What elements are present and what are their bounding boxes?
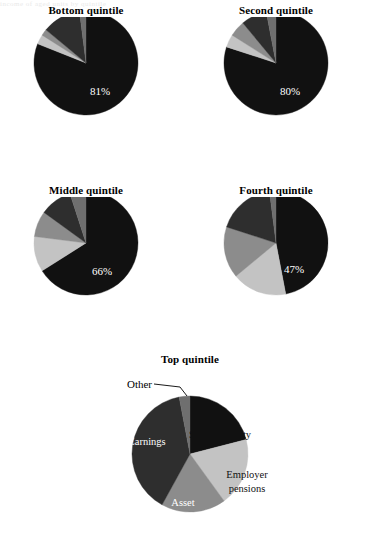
pct-label-bottom-quintile: 81% [90,85,110,97]
pie-svg-bottom-quintile: 81% [0,17,172,137]
pie-svg-top-quintile: Other 21% Social security Employer pensi… [75,366,305,541]
panel-title-top-quintile: Top quintile [75,353,305,366]
pie-bottom-quintile: 81% [0,17,172,137]
other-leader-line [154,384,187,396]
panel-title-fourth-quintile: Fourth quintile [190,184,362,197]
panel-title-middle-quintile: Middle quintile [0,184,172,197]
slice-label-asset-income-l2: income [168,511,199,522]
slice-label-employer-pensions-l1: Employer [226,469,268,480]
slice-label-asset-income-l1: Asset [171,497,194,508]
pie-second-quintile: 80% [190,17,362,137]
pie-svg-middle-quintile: 66% [0,197,172,317]
pie-svg-fourth-quintile: 47% [190,197,362,317]
pie-top-quintile: Other 21% Social security Employer pensi… [75,366,305,541]
slices-middle-quintile [34,197,138,295]
panel-title-bottom-quintile: Bottom quintile [0,4,172,17]
slice-label-earnings: Earnings [128,436,165,447]
pie-chart-figure: income of aged units by quintile Bottom … [0,0,382,542]
pie-svg-second-quintile: 80% [190,17,362,137]
slice-social-security[interactable] [276,197,328,294]
panel-fourth-quintile: Fourth quintile 47% [190,184,362,317]
pct-label-second-quintile: 80% [280,85,300,97]
panel-middle-quintile: Middle quintile 66% [0,184,172,317]
pie-fourth-quintile: 47% [190,197,362,317]
slices-bottom-quintile [34,17,138,115]
slices-second-quintile [224,17,328,115]
slice-label-employer-pensions-l2: pensions [229,483,266,494]
pct-label-middle-quintile: 66% [92,265,112,277]
pie-middle-quintile: 66% [0,197,172,317]
panel-top-quintile: Top quintile Other 21% Social security E… [75,353,305,541]
slice-label-other: Other [127,378,152,390]
panel-second-quintile: Second quintile 80% [190,4,362,137]
pct-label-fourth-quintile: 47% [284,263,304,275]
panel-title-second-quintile: Second quintile [190,4,362,17]
panel-bottom-quintile: Bottom quintile 81% [0,4,172,137]
pct-label-top-quintile: 21% [210,415,230,426]
slices-top-quintile [132,396,248,512]
slices-fourth-quintile [224,197,328,295]
slice-label-social-security-l1: Social security [189,429,252,440]
